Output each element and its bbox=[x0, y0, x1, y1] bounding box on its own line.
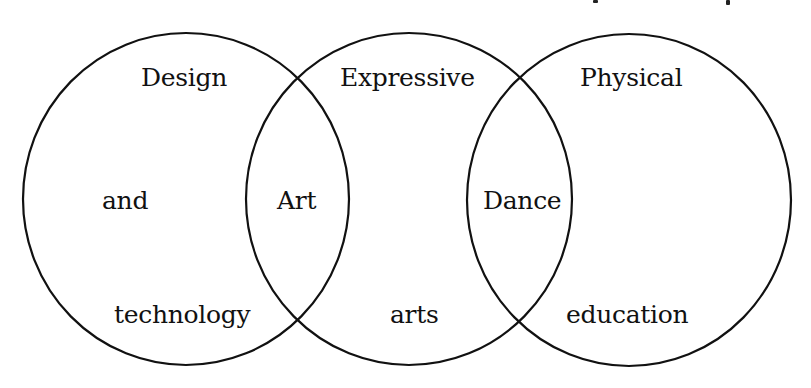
label-and: and bbox=[102, 186, 148, 215]
label-intersection-art: Art bbox=[276, 186, 316, 215]
label-physical: Physical bbox=[580, 63, 683, 92]
label-intersection-dance: Dance bbox=[483, 186, 561, 215]
label-design: Design bbox=[141, 63, 227, 92]
cropped-heading-fragments bbox=[593, 0, 730, 5]
label-technology: technology bbox=[114, 300, 251, 329]
venn-diagram: Design Expressive Physical and Art Dance… bbox=[0, 0, 811, 388]
label-expressive: Expressive bbox=[340, 63, 475, 92]
label-education: education bbox=[566, 300, 688, 329]
label-arts: arts bbox=[390, 300, 439, 329]
